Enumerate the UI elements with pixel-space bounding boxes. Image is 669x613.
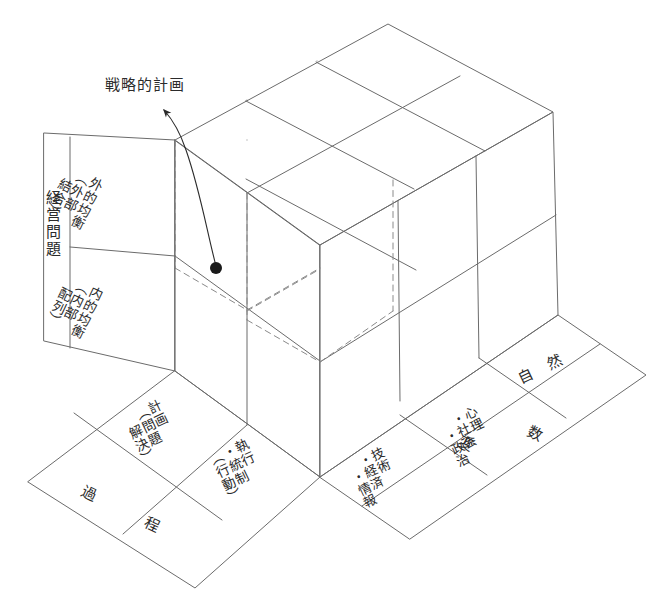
left-vertical-panel (44, 133, 175, 371)
front-right-band (320, 315, 646, 539)
front-left-band (28, 371, 320, 588)
cube-right-face (320, 112, 558, 477)
isometric-cube-svg (0, 0, 669, 613)
cube-top-face (175, 24, 553, 308)
strategic-plan-marker-dot (210, 262, 222, 274)
strategic-plan-arrow (164, 110, 216, 266)
diagram-canvas: 戦略的計画 経営問題 外的均衡 （外部 結合） 内的均衡 （内部 配列） 計画 … (0, 0, 669, 613)
